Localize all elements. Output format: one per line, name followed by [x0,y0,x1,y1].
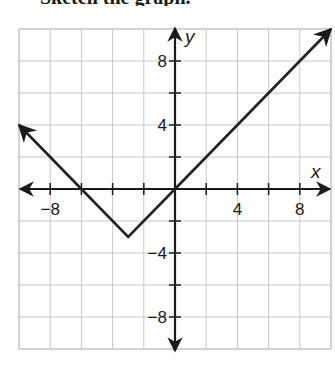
tick-labels: −84884−4−8xy [41,26,322,327]
x-tick-label: 8 [295,200,304,219]
x-tick-label: 4 [233,200,242,219]
y-tick-label: 8 [158,52,167,71]
y-tick-label: −4 [148,244,167,263]
y-tick-label: −8 [148,308,167,327]
y-axis-label: y [183,26,196,47]
y-tick-label: 4 [158,116,167,135]
x-axis-label: x [310,161,322,182]
x-tick-label: −8 [41,200,60,219]
coordinate-plane: −84884−4−8xy [0,0,335,372]
